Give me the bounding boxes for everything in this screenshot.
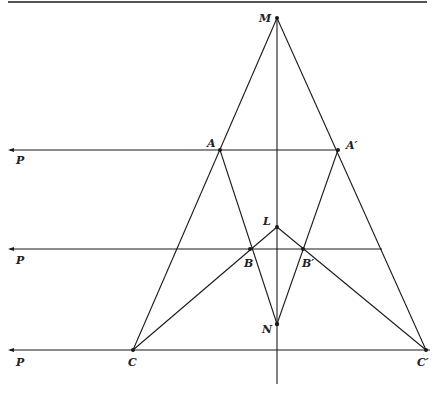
point-n — [275, 322, 279, 326]
label-n: N — [262, 324, 272, 335]
arrowhead-left-icon — [8, 348, 14, 352]
label-l: L — [263, 216, 271, 227]
arrowhead-left-icon — [8, 247, 14, 251]
label-p-bottom: P — [16, 357, 24, 368]
point-b — [248, 247, 252, 251]
segment-an — [220, 150, 277, 324]
segment-c-prime-l — [277, 227, 426, 350]
point-c-prime — [424, 348, 428, 352]
segment-mc-prime — [277, 18, 426, 350]
label-p-top: P — [16, 155, 24, 166]
label-c: C — [128, 357, 137, 368]
point-a — [218, 148, 222, 152]
point-m — [275, 16, 279, 20]
geometry-diagram — [0, 0, 439, 397]
segment-cl — [133, 227, 277, 350]
label-m: M — [259, 13, 271, 24]
label-p-middle: P — [16, 255, 24, 266]
arrowhead-left-icon — [8, 148, 14, 152]
label-a: A — [207, 138, 216, 149]
label-b-prime: B′ — [302, 258, 314, 269]
point-b-prime — [301, 247, 305, 251]
segment-mc — [133, 18, 277, 350]
point-l — [275, 225, 279, 229]
label-b: B — [244, 258, 253, 269]
label-c-prime: C′ — [417, 357, 429, 368]
segment-a-prime-n — [277, 150, 338, 324]
point-c — [131, 348, 135, 352]
point-a-prime — [336, 148, 340, 152]
label-a-prime: A′ — [346, 140, 357, 151]
